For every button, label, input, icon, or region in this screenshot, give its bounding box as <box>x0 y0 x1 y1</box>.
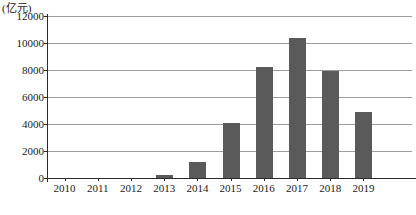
gridline-12000 <box>48 16 412 17</box>
y-tick-mark-10000 <box>44 43 47 44</box>
y-tick-mark-8000 <box>44 70 47 71</box>
y-tick-mark-6000 <box>44 97 47 98</box>
y-tick-mark-0 <box>44 178 47 179</box>
x-tick-label-2019: 2019 <box>343 182 383 194</box>
bar-chart: (亿元) 12000 10000 8000 6000 4000 2000 0 <box>0 0 416 215</box>
gridline-8000 <box>48 70 412 71</box>
plot-area <box>48 16 412 178</box>
y-tick-label-12000: 12000 <box>0 11 44 22</box>
x-tick-mark-2012 <box>131 178 132 181</box>
x-tick-mark-2014 <box>197 178 198 181</box>
bar-2016 <box>256 67 273 178</box>
y-tick-label-0: 0 <box>0 173 44 184</box>
bar-2017 <box>289 38 306 178</box>
y-tick-mark-12000 <box>44 16 47 17</box>
y-tick-mark-4000 <box>44 124 47 125</box>
bar-2015 <box>223 123 240 178</box>
x-tick-mark-2016 <box>264 178 265 181</box>
gridline-10000 <box>48 43 412 44</box>
y-tick-label-8000: 8000 <box>0 65 44 76</box>
y-tick-mark-2000 <box>44 151 47 152</box>
x-tick-mark-2011 <box>98 178 99 181</box>
x-tick-mark-2015 <box>231 178 232 181</box>
x-tick-mark-2017 <box>297 178 298 181</box>
x-tick-mark-2010 <box>65 178 66 181</box>
bar-2018 <box>322 71 339 178</box>
x-tick-mark-2013 <box>164 178 165 181</box>
gridline-6000 <box>48 97 412 98</box>
y-tick-label-4000: 4000 <box>0 119 44 130</box>
y-tick-label-10000: 10000 <box>0 38 44 49</box>
y-tick-label-2000: 2000 <box>0 146 44 157</box>
bar-2019 <box>355 112 372 178</box>
x-tick-mark-2019 <box>363 178 364 181</box>
bar-2014 <box>189 162 206 178</box>
x-tick-mark-2018 <box>330 178 331 181</box>
y-tick-label-6000: 6000 <box>0 92 44 103</box>
